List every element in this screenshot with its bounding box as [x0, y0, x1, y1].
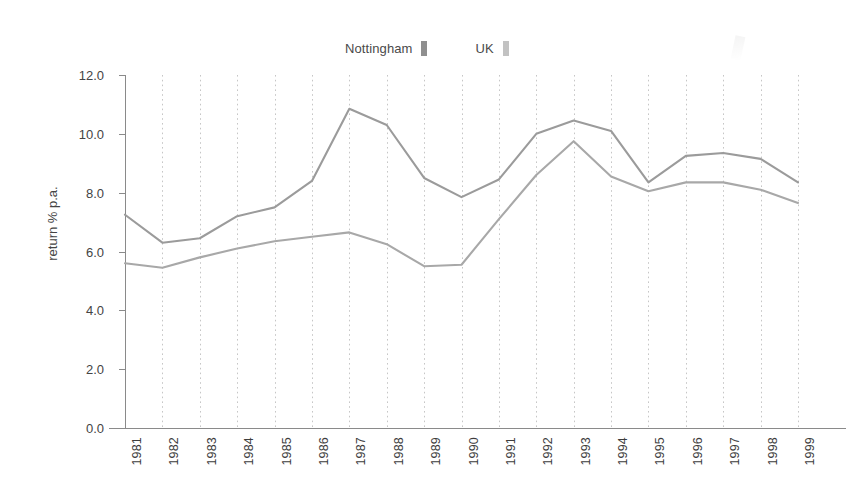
series-line-nottingham	[125, 109, 798, 243]
series-line-uk	[125, 141, 798, 267]
line-chart-figure: Nottingham UK return % p.a. 0.02.04.06.0…	[0, 0, 858, 494]
plot-area	[0, 0, 858, 494]
y-tick-marks	[119, 76, 126, 429]
